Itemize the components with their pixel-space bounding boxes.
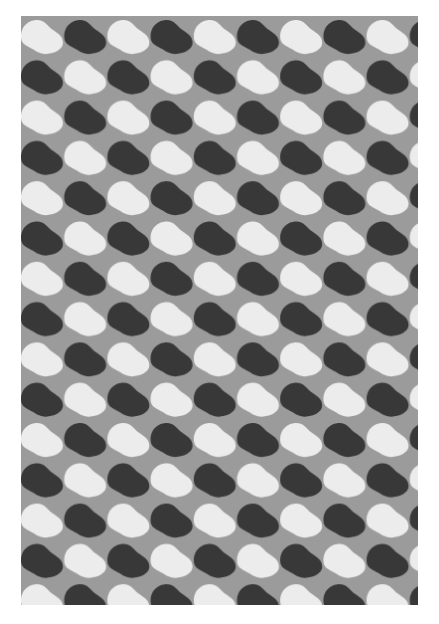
pattern-artwork — [21, 16, 418, 605]
pattern-tiles — [21, 16, 418, 605]
wave-scale-pattern — [21, 16, 418, 605]
